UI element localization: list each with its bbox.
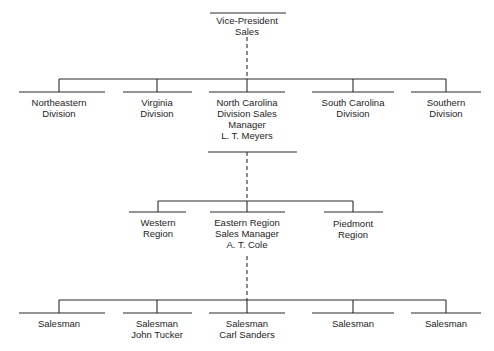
node-southern-division: Southern Division <box>427 97 466 119</box>
node-western-region: Western Region <box>140 217 175 239</box>
node-line: Salesman <box>38 318 80 329</box>
node-line: Division <box>322 108 385 119</box>
node-line: Piedmont <box>333 218 373 229</box>
node-north-carolina-division: North Carolina Division Sales Manager L.… <box>216 97 277 141</box>
node-line: Salesman <box>219 318 274 329</box>
node-line: A. T. Cole <box>214 239 279 250</box>
node-line: Northeastern <box>32 97 87 108</box>
node-line: Western <box>140 217 175 228</box>
node-line: Region <box>140 228 175 239</box>
node-virginia-division: Virginia Division <box>140 97 173 119</box>
node-line: Salesman <box>332 318 374 329</box>
node-line: John Tucker <box>131 329 183 340</box>
node-line: Sales Manager <box>214 228 279 239</box>
node-line: Sales <box>216 26 278 37</box>
node-line: South Carolina <box>322 97 385 108</box>
node-line: L. T. Meyers <box>216 130 277 141</box>
node-line: Vice-President <box>216 15 278 26</box>
node-line: North Carolina <box>216 97 277 108</box>
node-northeastern-division: Northeastern Division <box>32 97 87 119</box>
node-piedmont-region: Piedmont Region <box>333 218 373 240</box>
org-chart: Vice-President Sales Northeastern Divisi… <box>0 0 494 351</box>
node-salesman-john-tucker: Salesman John Tucker <box>131 318 183 340</box>
node-eastern-region: Eastern Region Sales Manager A. T. Cole <box>214 217 279 250</box>
node-salesman-carl-sanders: Salesman Carl Sanders <box>219 318 274 340</box>
node-line: Salesman <box>131 318 183 329</box>
node-line: Virginia <box>140 97 173 108</box>
node-salesman-4: Salesman <box>332 318 374 329</box>
node-line: Division <box>140 108 173 119</box>
node-salesman-5: Salesman <box>425 318 467 329</box>
node-line: Eastern Region <box>214 217 279 228</box>
node-line: Region <box>333 229 373 240</box>
node-line: Carl Sanders <box>219 329 274 340</box>
node-salesman-1: Salesman <box>38 318 80 329</box>
node-line: Southern <box>427 97 466 108</box>
node-line: Salesman <box>425 318 467 329</box>
node-vice-president-sales: Vice-President Sales <box>216 15 278 37</box>
node-line: Division <box>32 108 87 119</box>
node-south-carolina-division: South Carolina Division <box>322 97 385 119</box>
node-line: Division <box>427 108 466 119</box>
connector-lines <box>0 0 494 351</box>
node-line: Division Sales <box>216 108 277 119</box>
node-line: Manager <box>216 119 277 130</box>
